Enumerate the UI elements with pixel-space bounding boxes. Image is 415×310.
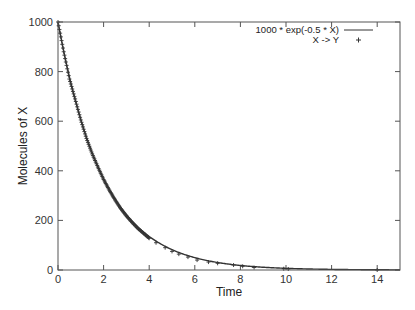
legend-plus-marker-icon bbox=[356, 38, 361, 43]
y-tick-label: 200 bbox=[35, 214, 53, 226]
y-tick-label: 400 bbox=[35, 165, 53, 177]
y-tick-label: 800 bbox=[35, 66, 53, 78]
series-line-exp bbox=[58, 22, 400, 270]
y-tick-label: 600 bbox=[35, 115, 53, 127]
axis-ticks bbox=[58, 22, 400, 270]
y-tick-labels: 02004006008001000 bbox=[29, 16, 53, 276]
plot-frame bbox=[58, 22, 400, 270]
x-tick-label: 14 bbox=[371, 273, 383, 285]
x-tick-label: 10 bbox=[280, 273, 292, 285]
x-tick-label: 2 bbox=[101, 273, 107, 285]
x-axis-label: Time bbox=[216, 285, 243, 299]
chart: 02468101214 02004006008001000 Time Molec… bbox=[0, 0, 415, 310]
x-tick-labels: 02468101214 bbox=[55, 273, 383, 285]
x-tick-label: 8 bbox=[237, 273, 243, 285]
y-axis-label: Molecules of X bbox=[16, 107, 30, 186]
legend: 1000 * exp(-0.5 * X) X -> Y bbox=[256, 24, 373, 45]
series-layer bbox=[56, 20, 400, 272]
y-tick-label: 0 bbox=[47, 264, 53, 276]
legend-label-xy: X -> Y bbox=[313, 34, 340, 45]
x-tick-label: 12 bbox=[325, 273, 337, 285]
x-tick-label: 0 bbox=[55, 273, 61, 285]
y-tick-label: 1000 bbox=[29, 16, 53, 28]
series-points-x-to-y bbox=[56, 20, 379, 272]
x-tick-label: 6 bbox=[192, 273, 198, 285]
x-tick-label: 4 bbox=[146, 273, 152, 285]
